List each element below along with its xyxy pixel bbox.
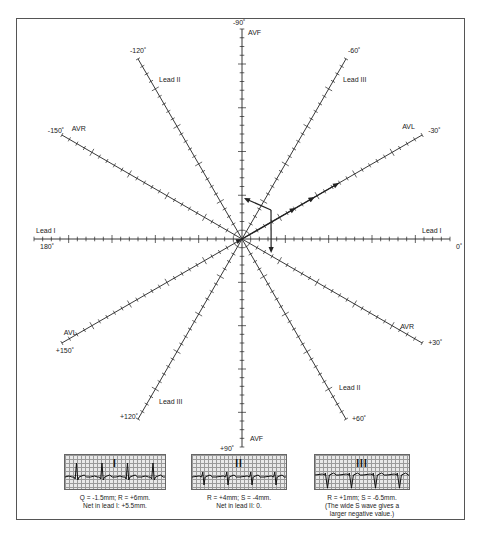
axis-tick <box>90 322 94 329</box>
axis-tick <box>165 279 169 286</box>
axis-tick <box>282 162 289 166</box>
axis-tick <box>260 199 267 203</box>
degree-label: -90˚ <box>233 19 245 26</box>
axis-tick <box>353 171 357 178</box>
axis-tick <box>390 322 394 329</box>
axis-tick <box>202 214 206 221</box>
ecg-trace <box>65 455 166 490</box>
degree-label: 0˚ <box>456 243 462 250</box>
degree-label: -150˚ <box>48 127 64 134</box>
axis-tick <box>195 312 202 316</box>
degree-label: -30˚ <box>428 127 440 134</box>
axis-tick <box>282 312 289 316</box>
strip-caption-lead-I: Q = -1.5mm; R = +6mm. Net in lead I: +5.… <box>56 494 174 510</box>
axis-tick <box>174 350 181 354</box>
caption-line: R = +4mm; S = -4mm. <box>180 494 298 502</box>
axis-tick <box>325 387 332 391</box>
axis-tick <box>260 275 267 279</box>
lead-label: Lead II <box>159 76 180 83</box>
caption-line: Net in lead II: 0. <box>180 502 298 510</box>
axis-tick <box>217 275 224 279</box>
axis-tick <box>353 301 357 308</box>
lead-label: AVR <box>400 323 414 330</box>
strip-caption-lead-III: R = +1mm; S = -6.5mm. (The wide S wave g… <box>302 494 422 518</box>
caption-line: R = +1mm; S = -6.5mm. <box>302 494 422 502</box>
lead-label: AVF <box>248 29 261 36</box>
axis-tick <box>304 350 311 354</box>
ecg-strip-lead-II: II <box>191 454 287 490</box>
lead-label: Lead I <box>36 227 56 234</box>
ecg-trace <box>315 455 410 490</box>
degree-label: +60˚ <box>352 415 366 422</box>
ecg-strip-lead-I: I <box>64 454 166 490</box>
ecg-strip-lead-III: III <box>314 454 410 490</box>
axis-tick <box>202 257 206 264</box>
degree-label: +90˚ <box>220 445 234 452</box>
axis-tick <box>390 149 394 156</box>
axis-tick <box>152 87 159 91</box>
degree-label: +30˚ <box>428 339 442 346</box>
caption-line: (The wide S wave gives a <box>302 502 422 510</box>
axis-tick <box>152 387 159 391</box>
axis-tick <box>90 149 94 156</box>
lead-label: AVF <box>250 435 263 442</box>
degree-label: +150˚ <box>56 347 74 354</box>
lead-label: AVL <box>402 123 415 130</box>
axis-tick <box>127 171 131 178</box>
lead-label: AVR <box>72 125 86 132</box>
lead-label: Lead III <box>343 76 366 83</box>
axis-tick <box>165 192 169 199</box>
axis-tick <box>315 279 319 286</box>
axis-tick <box>325 87 332 91</box>
axis-tick <box>278 257 282 264</box>
ecg-trace <box>192 455 287 490</box>
lead-label: Lead III <box>159 398 182 405</box>
degree-label: +120˚ <box>120 413 138 420</box>
caption-line: larger negative value.) <box>302 510 422 518</box>
axis-tick <box>174 124 181 128</box>
degree-label: -60˚ <box>348 47 360 54</box>
degree-label: -120˚ <box>130 47 146 54</box>
caption-line: Q = -1.5mm; R = +6mm. <box>56 494 174 502</box>
lead-label: Lead II <box>339 384 360 391</box>
arrow-head-icon <box>269 247 274 253</box>
lead-label: AVL <box>64 329 77 336</box>
axis-tick <box>217 199 224 203</box>
axis-tick <box>127 301 131 308</box>
axis-tick <box>304 124 311 128</box>
strip-caption-lead-II: R = +4mm; S = -4mm. Net in lead II: 0. <box>180 494 298 510</box>
axis-tick <box>195 162 202 166</box>
lead-label: Lead I <box>422 227 442 234</box>
caption-line: Net in lead I: +5.5mm. <box>56 502 174 510</box>
degree-label: 180˚ <box>40 243 54 250</box>
